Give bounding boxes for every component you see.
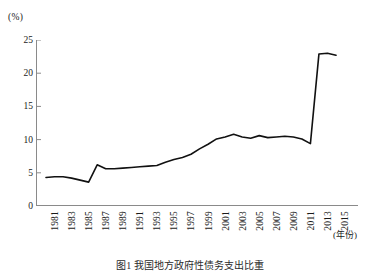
x-axis-tick-label: 1989 bbox=[118, 211, 128, 231]
x-axis-tick-label: 2011 bbox=[306, 211, 316, 230]
x-axis-tick-label: 1983 bbox=[67, 211, 77, 231]
x-axis-unit-label: (年份) bbox=[333, 228, 357, 241]
x-axis-tick-label: 1985 bbox=[84, 211, 94, 231]
x-axis-tick-label: 1991 bbox=[135, 211, 145, 231]
x-axis-tick-label: 1987 bbox=[101, 211, 111, 231]
x-axis-tick-label: 2001 bbox=[221, 211, 231, 231]
x-axis-tick-label: 1997 bbox=[186, 211, 196, 231]
x-axis-tick-label: 2007 bbox=[272, 211, 282, 231]
x-axis-tick-label: 2003 bbox=[238, 211, 248, 231]
x-axis-tick-label: 2005 bbox=[255, 211, 265, 231]
x-axis-tick-label: 2009 bbox=[289, 211, 299, 231]
x-axis-tick-label: 1999 bbox=[204, 211, 214, 231]
x-axis-tick-label: 1993 bbox=[152, 211, 162, 231]
x-axis-tick-label: 1981 bbox=[50, 211, 60, 231]
x-axis-tick-label: 1995 bbox=[169, 211, 179, 231]
figure-caption: 图1 我国地方政府性债务支出比重 bbox=[0, 257, 380, 272]
x-axis-tick-label: 2013 bbox=[323, 211, 333, 231]
